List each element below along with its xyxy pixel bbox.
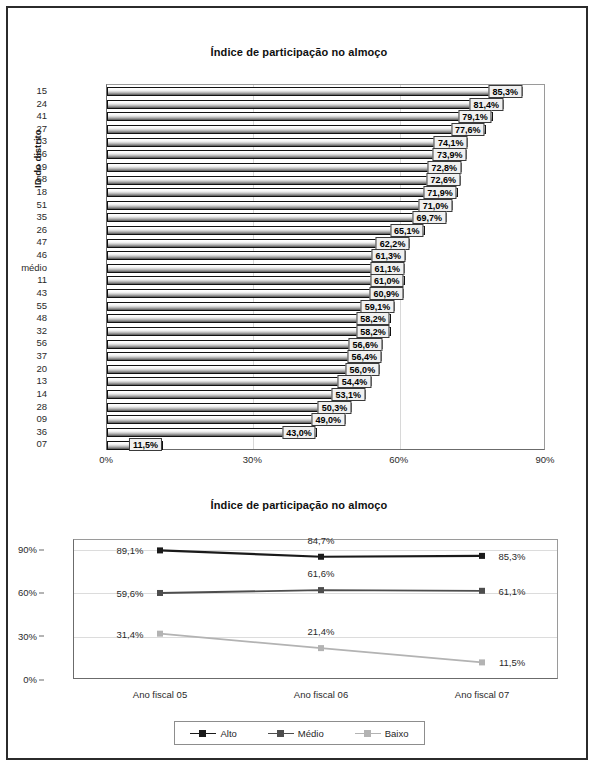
bar-category-label: 09	[0, 412, 47, 425]
bar-row: 69,7%	[107, 211, 546, 224]
bar-category-label: 56	[0, 336, 47, 349]
line-marker	[157, 547, 163, 553]
bar-row: 49,0%	[107, 413, 546, 426]
bar-category-label: 26	[0, 223, 47, 236]
bar: 58,2%	[107, 327, 391, 336]
line-marker	[318, 554, 324, 560]
bar-row: 74,1%	[107, 135, 546, 148]
bar-value-label: 71,9%	[423, 186, 457, 199]
bar-row: 56,4%	[107, 350, 546, 363]
bar: 61,0%	[107, 276, 405, 285]
bar-row: 71,9%	[107, 186, 546, 199]
bar: 60,9%	[107, 289, 404, 298]
line-y-tick-label: 60%	[0, 587, 37, 598]
line-point-label: 85,3%	[499, 550, 526, 561]
line-marker	[157, 631, 163, 637]
bar-value-label: 73,9%	[433, 148, 467, 161]
line-point-label: 59,6%	[117, 587, 144, 598]
bar-row: 58,2%	[107, 325, 546, 338]
line-chart-legend: AltoMédioBaixo	[174, 721, 425, 745]
bar-value-label: 53,1%	[331, 388, 365, 401]
line-y-tick-label: 0%	[0, 674, 37, 685]
bar-value-label: 58,2%	[356, 325, 390, 338]
bar: 65,1%	[107, 226, 425, 235]
legend-item-alto[interactable]: Alto	[190, 728, 236, 739]
line-point-label: 61,6%	[308, 568, 335, 579]
bar-row: 61,1%	[107, 262, 546, 275]
line-x-tick-label: Ano fiscal 05	[133, 689, 187, 700]
bar-value-label: 58,2%	[356, 312, 390, 325]
bar: 49,0%	[107, 415, 346, 424]
bar-category-label: 37	[0, 349, 47, 362]
bar-row: 53,1%	[107, 388, 546, 401]
bar: 81,4%	[107, 100, 504, 109]
legend-marker-icon	[190, 729, 216, 738]
line-point-label: 31,4%	[117, 628, 144, 639]
bar-category-label: 36	[0, 425, 47, 438]
bar-value-label: 60,9%	[370, 287, 404, 300]
bar-value-label: 61,3%	[371, 249, 405, 262]
bar-category-label: 28	[0, 400, 47, 413]
bar-category-label: 11	[0, 273, 47, 286]
bar: 73,9%	[107, 150, 467, 159]
bar-category-label: 15	[0, 84, 47, 97]
bar-value-label: 61,1%	[371, 262, 405, 275]
bar: 69,7%	[107, 213, 447, 222]
bar-value-label: 56,4%	[348, 350, 382, 363]
bar-category-label: 55	[0, 299, 47, 312]
legend-item-baixo[interactable]: Baixo	[355, 728, 409, 739]
line-chart: Índice de participação no almoço 0%30%60…	[8, 490, 590, 762]
line-y-tick-label: 90%	[0, 544, 37, 555]
page-frame: Índice de participação no almoço ID do d…	[6, 6, 588, 760]
bar: 56,6%	[107, 340, 383, 349]
bar-row: 85,3%	[107, 85, 546, 98]
legend-label: Médio	[298, 728, 324, 739]
bar-category-label: 66	[0, 147, 47, 160]
bar-value-label: 43,0%	[282, 426, 316, 439]
bar: 56,4%	[107, 352, 382, 361]
bar-category-label: 58	[0, 172, 47, 185]
bar-row: 65,1%	[107, 224, 546, 237]
bar-row: 61,3%	[107, 249, 546, 262]
bar-category-label: 41	[0, 109, 47, 122]
bar: 61,3%	[107, 251, 406, 260]
bar-value-label: 85,3%	[489, 85, 523, 98]
bar-value-label: 49,0%	[311, 413, 345, 426]
bar-category-label: 48	[0, 311, 47, 324]
bar-x-tick-label: 30%	[243, 454, 262, 465]
bar: 53,1%	[107, 390, 366, 399]
bar-category-label: 18	[0, 185, 47, 198]
line-point-label: 61,1%	[499, 585, 526, 596]
bar-category-label: 07	[0, 437, 47, 450]
bar-value-label: 61,0%	[370, 274, 404, 287]
bar: 58,2%	[107, 314, 391, 323]
bar-row: 56,6%	[107, 337, 546, 350]
line-point-label: 84,7%	[308, 534, 335, 545]
bar: 43,0%	[107, 428, 317, 437]
bar-x-tick-label: 90%	[535, 454, 554, 465]
bar-value-label: 74,1%	[434, 136, 468, 149]
bar-value-label: 69,7%	[412, 211, 446, 224]
bar-row: 77,6%	[107, 123, 546, 136]
bar-category-label: 43	[0, 286, 47, 299]
bar-value-label: 65,1%	[390, 224, 424, 237]
bar-category-label: 24	[0, 97, 47, 110]
bar-category-label: 13	[0, 374, 47, 387]
bar-chart-title: Índice de participação no almoço	[8, 46, 590, 58]
bar-value-label: 54,4%	[338, 375, 372, 388]
bar: 72,6%	[107, 176, 461, 185]
bar-category-label: 14	[0, 387, 47, 400]
bar-value-label: 59,1%	[361, 300, 395, 313]
line-marker	[157, 590, 163, 596]
bar-value-label: 71,0%	[419, 199, 453, 212]
line-point-label: 21,4%	[308, 626, 335, 637]
bar-chart: Índice de participação no almoço ID do d…	[8, 8, 590, 490]
legend-item-médio[interactable]: Médio	[268, 728, 324, 739]
bar-row: 73,9%	[107, 148, 546, 161]
bar: 11,5%	[107, 441, 163, 450]
bar-row: 62,2%	[107, 236, 546, 249]
legend-label: Baixo	[385, 728, 409, 739]
bar-value-label: 72,8%	[428, 161, 462, 174]
bar-x-tick-label: 0%	[99, 454, 113, 465]
bar-category-label: 19	[0, 160, 47, 173]
